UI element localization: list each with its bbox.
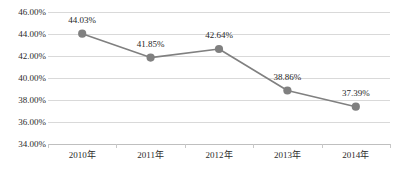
- data-point-marker: [215, 45, 223, 53]
- clipped-caption: [48, 168, 390, 174]
- x-axis-tick-label: 2011年: [116, 150, 186, 161]
- data-label: 37.39%: [327, 88, 385, 98]
- data-label: 42.64%: [190, 30, 248, 40]
- data-label: 44.03%: [53, 15, 111, 25]
- data-point-marker: [147, 54, 155, 62]
- x-axis-tick-label: 2010年: [47, 150, 117, 161]
- data-point-marker: [283, 86, 291, 94]
- data-label: 41.85%: [122, 39, 180, 49]
- x-axis-tick-label: 2012年: [184, 150, 254, 161]
- data-point-marker: [78, 30, 86, 38]
- x-axis-tick-label: 2014年: [321, 150, 391, 161]
- data-point-marker: [352, 103, 360, 111]
- x-axis-tick-label: 2013年: [252, 150, 322, 161]
- data-label: 38.86%: [258, 72, 316, 82]
- line-chart: 46.00% 44.00% 42.00% 40.00% 38.00% 36.00…: [0, 0, 397, 174]
